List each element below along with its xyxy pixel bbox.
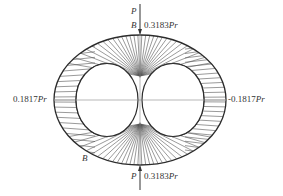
bottom-load-label: P	[131, 172, 137, 181]
top-load-label: P	[131, 7, 137, 16]
region-c-label: C	[185, 82, 191, 91]
top-point-label: B	[131, 21, 137, 30]
bottom-value-label: 0.3183Pr	[144, 172, 178, 181]
bottom-load-arrow-icon	[138, 165, 142, 190]
top-value-label: 0.3183Pr	[144, 21, 178, 30]
bottom-point-label: B	[82, 154, 88, 163]
left-value-label: 0.1817Pr	[13, 95, 47, 104]
top-load-arrow-icon	[138, 4, 142, 35]
right-value-label: -0.1817Pr	[228, 95, 265, 104]
region-a-label: A	[90, 82, 96, 91]
